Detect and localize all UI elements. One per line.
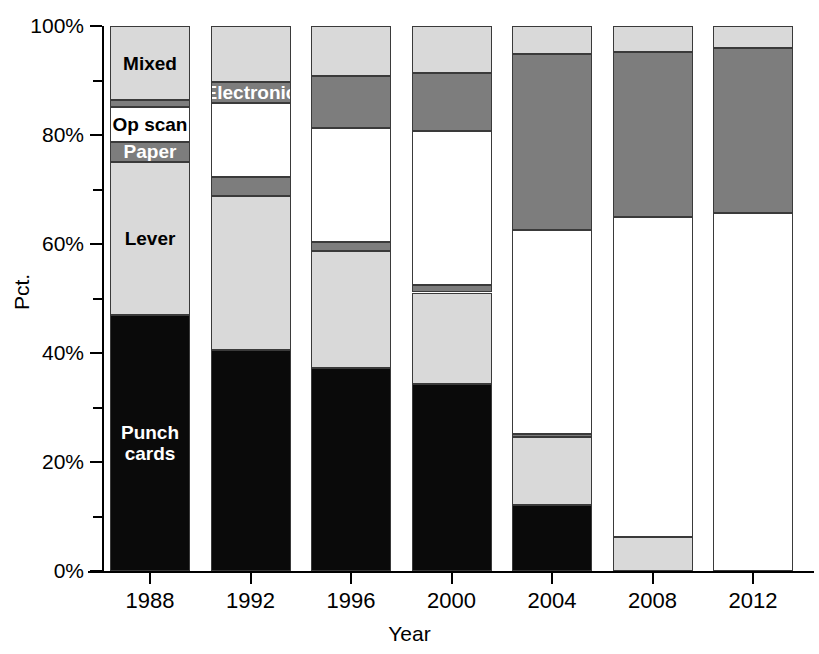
bar-segment-label: Lever — [125, 228, 176, 249]
bar-segment-punch-cards-1996[interactable] — [311, 368, 391, 571]
bar-segment-op-scan-1996[interactable] — [311, 128, 391, 242]
bar-segment-electronic-2012[interactable] — [713, 48, 793, 213]
bar-segment-paper-1988[interactable]: Paper — [110, 142, 190, 162]
y-axis-tick — [90, 134, 102, 136]
bar-segment-mixed-2012[interactable] — [713, 26, 793, 48]
bar-group[interactable] — [713, 0, 793, 654]
bar-segment-mixed-2000[interactable] — [412, 26, 492, 73]
bar-segment-lever-2000[interactable] — [412, 293, 492, 385]
bar-segment-paper-1992[interactable] — [211, 177, 291, 196]
bar-group[interactable] — [311, 0, 391, 654]
bar-segment-paper-1996[interactable] — [311, 242, 391, 251]
bar-segment-label: Electronic — [211, 82, 291, 103]
bar-segment-op-scan-2004[interactable] — [512, 230, 592, 434]
y-axis-minor-tick — [93, 516, 102, 518]
bar-segment-mixed-2004[interactable] — [512, 26, 592, 54]
bar-group[interactable] — [512, 0, 592, 654]
bar-segment-lever-1992[interactable] — [211, 196, 291, 350]
bar-segment-electronic-2004[interactable] — [512, 54, 592, 230]
y-axis-minor-tick — [93, 298, 102, 300]
y-axis-tick — [90, 352, 102, 354]
bar-segment-paper-2000[interactable] — [412, 285, 492, 292]
bar-segment-electronic-1988[interactable] — [110, 100, 190, 107]
bar-segment-electronic-1996[interactable] — [311, 76, 391, 128]
bar-segment-lever-2008[interactable] — [613, 537, 693, 571]
y-axis-minor-tick — [93, 189, 102, 191]
bar-segment-electronic-1992[interactable]: Electronic — [211, 82, 291, 104]
bar-segment-lever-1988[interactable]: Lever — [110, 162, 190, 315]
bar-segment-mixed-1996[interactable] — [311, 26, 391, 76]
y-axis-tick — [90, 25, 102, 27]
bar-segment-op-scan-2008[interactable] — [613, 217, 693, 537]
bar-segment-mixed-2008[interactable] — [613, 26, 693, 52]
bar-segment-op-scan-2012[interactable] — [713, 213, 793, 571]
bar-group[interactable] — [412, 0, 492, 654]
bar-segment-label: Punch cards — [121, 422, 179, 464]
bar-segment-op-scan-1992[interactable] — [211, 103, 291, 177]
bar-segment-label: Op scan — [113, 114, 188, 135]
bar-segment-punch-cards-2004[interactable] — [512, 505, 592, 571]
y-axis-tick — [90, 243, 102, 245]
bar-segment-op-scan-2000[interactable] — [412, 131, 492, 285]
plot-area: Punch cardsLeverPaperOp scanMixedElectro… — [0, 0, 819, 654]
bar-segment-paper-2004[interactable] — [512, 434, 592, 437]
y-axis-minor-tick — [93, 407, 102, 409]
bar-segment-label: Paper — [124, 142, 177, 162]
bar-group[interactable] — [613, 0, 693, 654]
bar-group[interactable]: Punch cardsLeverPaperOp scanMixed — [110, 0, 190, 654]
y-axis-tick — [90, 570, 102, 572]
bar-segment-label: Mixed — [123, 53, 177, 74]
bar-segment-punch-cards-1988[interactable]: Punch cards — [110, 315, 190, 571]
bar-segment-electronic-2000[interactable] — [412, 73, 492, 131]
bar-segment-lever-2004[interactable] — [512, 437, 592, 505]
bar-segment-mixed-1992[interactable] — [211, 26, 291, 82]
bar-segment-punch-cards-1992[interactable] — [211, 350, 291, 571]
bar-segment-mixed-1988[interactable]: Mixed — [110, 26, 190, 100]
bar-group[interactable]: Electronic — [211, 0, 291, 654]
bar-segment-lever-1996[interactable] — [311, 251, 391, 368]
stacked-bar-chart: Pct. 0%20%40%60%80%100% 1988199219962000… — [0, 0, 819, 654]
bar-segment-punch-cards-2000[interactable] — [412, 384, 492, 571]
y-axis-tick — [90, 461, 102, 463]
bar-segment-electronic-2008[interactable] — [613, 52, 693, 217]
bar-segment-op-scan-1988[interactable]: Op scan — [110, 107, 190, 141]
y-axis-minor-tick — [93, 80, 102, 82]
